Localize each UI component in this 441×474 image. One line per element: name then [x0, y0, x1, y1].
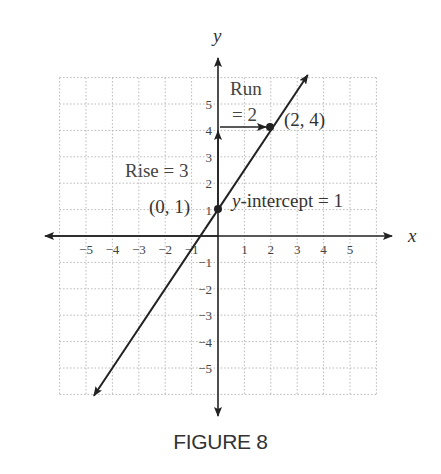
x-tick-label: 5 [347, 242, 354, 257]
x-tick-label: −5 [79, 242, 93, 257]
y-tick-label: −4 [198, 335, 212, 350]
x-tick-label: 4 [320, 242, 327, 257]
y-tick-label: −5 [198, 361, 212, 376]
y-tick-label: 4 [206, 123, 213, 138]
y-intercept-label: y-intercept = 1 [230, 190, 343, 211]
x-tick-label: 2 [268, 242, 275, 257]
point-0-1-label: (0, 1) [149, 196, 190, 218]
x-tick-label: 1 [241, 242, 248, 257]
run-label-line1: Run [230, 78, 262, 99]
point-0-1 [214, 205, 222, 213]
x-tick-labels: −5−4−3−2−112345 [79, 242, 353, 257]
run-label-line2: = 2 [232, 104, 257, 125]
x-tick-label: −4 [105, 242, 119, 257]
figure-caption: FIGURE 8 [0, 430, 441, 454]
y-tick-label: −1 [198, 255, 212, 270]
y-tick-label: −2 [198, 282, 212, 297]
y-tick-label: 1 [206, 203, 213, 218]
point-2-4 [266, 123, 274, 131]
x-tick-label: −2 [158, 242, 172, 257]
x-tick-label: 3 [294, 242, 301, 257]
y-tick-label: −3 [198, 308, 212, 323]
x-axis-label: x [407, 225, 417, 246]
y-tick-label: 5 [206, 97, 213, 112]
point-2-4-label: (2, 4) [284, 109, 325, 131]
x-tick-label: −3 [132, 242, 146, 257]
coordinate-plane: x y −5−4−3−2−112345 −5−4−3−2−112345 Rise… [0, 0, 441, 474]
y-tick-label: 3 [206, 150, 213, 165]
rise-label: Rise = 3 [125, 160, 189, 181]
y-axis-label: y [211, 25, 222, 46]
y-tick-label: 2 [206, 176, 213, 191]
